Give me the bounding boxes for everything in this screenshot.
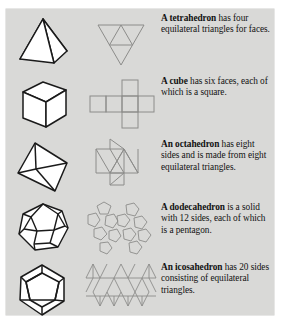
dodecahedron-term: A dodecahedron [161, 202, 225, 212]
figure-page: A tetrahedron has four equilateral trian… [0, 0, 281, 323]
tetrahedron-term: A tetrahedron [161, 13, 216, 23]
solid-row-icosahedron: An icosahedron has 20 sides consisting o… [6, 260, 274, 323]
octahedron-net-icon [84, 137, 158, 200]
cube-net-icon [84, 74, 158, 137]
solid-row-octahedron: An octahedron has eight sides and is mad… [6, 137, 274, 200]
cube-solid-illustration [10, 74, 82, 137]
icosahedron-net-icon [84, 260, 158, 323]
solid-row-cube: A cube has six faces, each of which is a… [6, 74, 274, 137]
solid-row-dodecahedron: A dodecahedron is a solid with 12 sides,… [6, 200, 274, 263]
cube-net-illustration [84, 74, 158, 137]
tetrahedron-solid-icon [10, 11, 82, 74]
octahedron-net-illustration [84, 137, 158, 200]
octahedron-solid-icon [10, 137, 82, 200]
octahedron-solid-illustration [10, 137, 82, 200]
dodecahedron-net-icon [84, 200, 158, 263]
icosahedron-solid-illustration [10, 260, 82, 323]
dodecahedron-solid-illustration [10, 200, 82, 263]
dodecahedron-solid-icon [10, 200, 82, 263]
octahedron-description: An octahedron has eight sides and is mad… [161, 139, 273, 173]
tetrahedron-description: A tetrahedron has four equilateral trian… [161, 13, 273, 36]
cube-description: A cube has six faces, each of which is a… [161, 76, 273, 99]
octahedron-term: An octahedron [161, 139, 219, 149]
cube-term: A cube [161, 76, 188, 86]
platonic-solids-panel: A tetrahedron has four equilateral trian… [6, 9, 274, 315]
tetrahedron-net-illustration [84, 11, 158, 74]
icosahedron-description: An icosahedron has 20 sides consisting o… [161, 262, 273, 296]
icosahedron-solid-icon [10, 260, 82, 323]
icosahedron-term: An icosahedron [161, 262, 222, 272]
dodecahedron-net-illustration [84, 200, 158, 263]
dodecahedron-description: A dodecahedron is a solid with 12 sides,… [161, 202, 273, 236]
tetrahedron-net-icon [84, 11, 158, 74]
icosahedron-net-illustration [84, 260, 158, 323]
solid-row-tetrahedron: A tetrahedron has four equilateral trian… [6, 11, 274, 74]
cube-solid-icon [10, 74, 82, 137]
tetrahedron-solid-illustration [10, 11, 82, 74]
